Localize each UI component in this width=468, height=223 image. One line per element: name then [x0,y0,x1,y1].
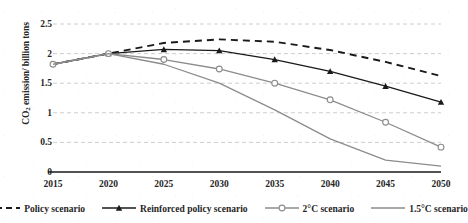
chart-legend: Policy scenarioReinforced policy scenari… [0,200,454,218]
data-point-marker [438,144,444,150]
legend-key-icon [0,202,20,216]
legend-item[interactable]: 2°C scenario [265,202,355,216]
legend-item[interactable]: Policy scenario [0,202,85,216]
legend-item[interactable]: 1.5°C scenario [371,202,468,216]
legend-label: 2°C scenario [303,204,355,214]
legend-key-icon [265,202,299,216]
data-point-marker [327,97,333,103]
gridlines [53,24,441,142]
legend-key-icon [102,202,136,216]
data-point-marker [383,119,389,125]
data-point-marker [161,57,167,63]
data-series-layer [50,39,444,166]
legend-label: Policy scenario [24,204,85,214]
legend-label: Reinforced policy scenario [140,204,247,214]
series-line [53,54,441,166]
data-point-marker [272,80,278,86]
legend-item[interactable]: Reinforced policy scenario [102,202,247,216]
series-line [53,39,441,76]
series-line [53,54,441,148]
legend-label: 1.5°C scenario [409,204,468,214]
data-point-marker [216,66,222,72]
legend-key-icon [371,202,405,216]
